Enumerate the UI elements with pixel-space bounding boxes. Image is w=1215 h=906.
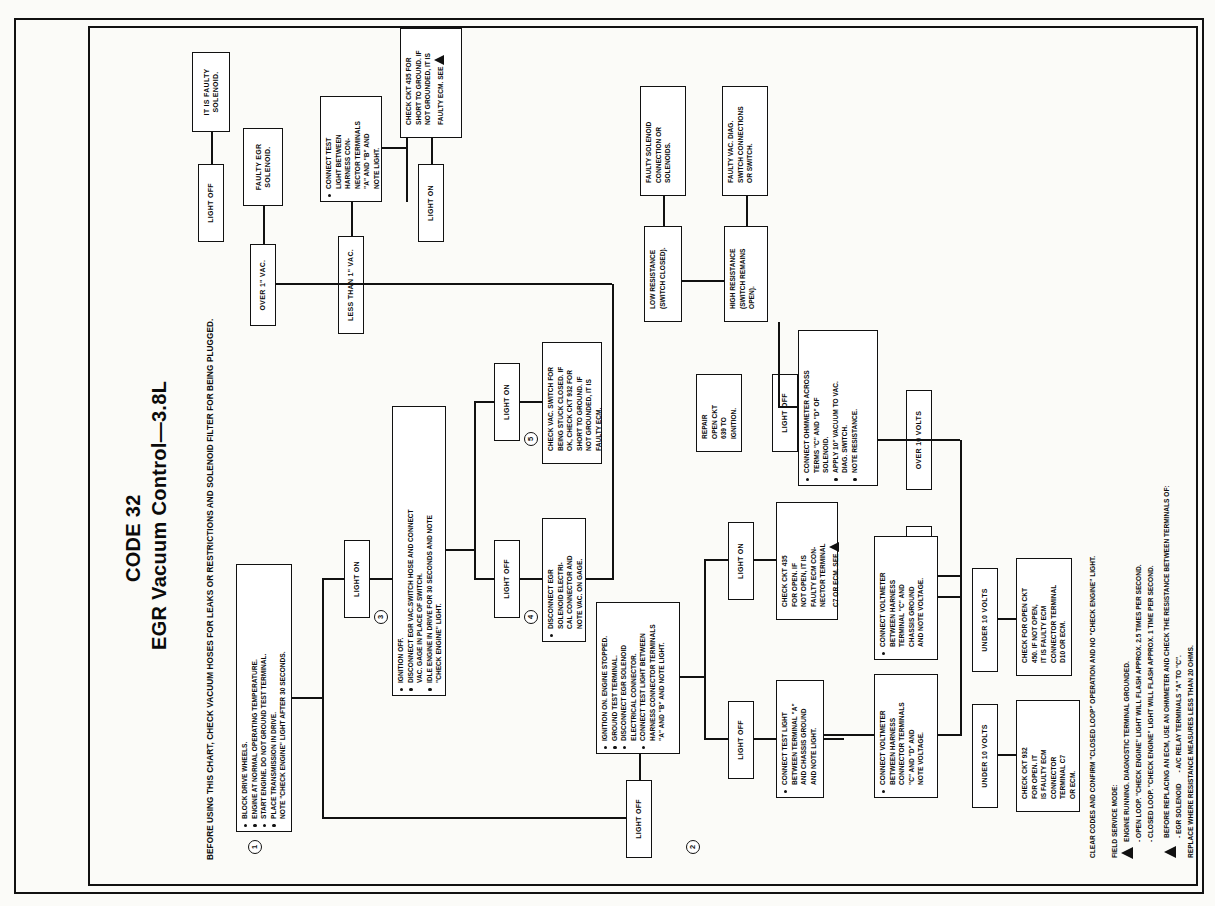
box-line: HIGH RESISTANCE xyxy=(729,231,738,317)
label-under-10-volts-2: UNDER 10 VOLTS xyxy=(972,568,998,672)
connector-h-6 xyxy=(612,284,614,580)
box-line: FAULTY VAC. DIAG. xyxy=(727,91,736,191)
box-line: AND CHASSIS GROUND xyxy=(800,685,809,793)
step-number-2: 2 xyxy=(686,840,700,854)
box-connect-ohmmeter-access-terminals: CONNECT OHMMETER ACROSSTERMS "C" AND "D"… xyxy=(798,330,878,486)
box-line: NOTE LIGHT. xyxy=(373,101,382,197)
label-less-than-1-vac: LESS THAN 1" VAC. xyxy=(338,236,364,334)
box-line: BETWEEN TERMINAL "A" xyxy=(791,685,800,793)
box-line: NOT OPEN, IT IS xyxy=(800,507,809,615)
connector-v-1-right xyxy=(322,578,344,580)
warning-triangle-icon xyxy=(1164,845,1176,858)
box-line: BETWEEN HARNESS xyxy=(889,679,898,793)
box-line: OR SWITCH. xyxy=(746,91,755,191)
box-check-ckt-435-open: CHECK CKT 435FOR OPEN. IFNOT OPEN, IT IS… xyxy=(776,502,838,620)
connector-v-18 xyxy=(824,734,874,736)
label-over-1-vac: OVER 1" VAC. xyxy=(250,244,276,326)
box-line: FOR OPEN. IT xyxy=(1031,705,1040,807)
box-line: CONNECT VOLTMETER xyxy=(879,679,888,793)
box-step-2-ignition-on: IGNITION ON. ENGINE STOPPED.GROUND TEST … xyxy=(596,602,680,754)
connector-h-11 xyxy=(431,138,433,164)
box-line: CHECK CKT 435 FOR xyxy=(405,33,414,133)
label-light-off-5: LIGHT OFF xyxy=(772,374,798,452)
box-line: NECTOR TERMINAL xyxy=(819,507,828,615)
label-light-off-4: LIGHT OFF xyxy=(728,701,754,779)
box-line: (SWITCH REMAINS xyxy=(739,231,748,317)
box-line: CHECK VAC. SWITCH FOR xyxy=(547,347,556,459)
box-line: SHORT TO GROUND. IF xyxy=(576,347,585,459)
connector-h-8 xyxy=(351,202,353,236)
box-line: BLOCK DRIVE WHEELS. xyxy=(241,569,250,827)
box-line: HARNESS CONNECTOR TERMINALS xyxy=(649,607,658,749)
box-line: AND NOTE VOLTAGE. xyxy=(917,541,926,655)
box-connect-voltmeter-terminals-c-d: CONNECT VOLTMETERBETWEEN HARNESSCONNECTO… xyxy=(874,674,938,798)
box-faulty-solenoid-connection: FAULTY SOLENOIDCONNECTION ORSOLENOIDS. xyxy=(640,86,686,196)
connector-v-19 xyxy=(938,734,960,736)
box-line: SOLENOID ELECTRI- xyxy=(557,523,566,637)
connector-h-3 xyxy=(474,402,476,580)
connector-v-7 xyxy=(276,283,612,285)
box-line: OK, CHECK CKT 932 FOR xyxy=(566,347,575,459)
scanned-page: CODE 32 EGR Vacuum Control—3.8L BEFORE U… xyxy=(0,0,1215,906)
box-repair-open-ckt-639: REPAIROPEN CKT639 TOIGNITION. xyxy=(696,374,742,452)
box-connect-test-light-terminal-a: CONNECT TEST LIGHTBETWEEN TERMINAL "A"AN… xyxy=(776,680,824,798)
box-line: ENGINE AT NORMAL OPERATING TEMPERATURE. xyxy=(251,569,260,827)
label-light-on-1: LIGHT ON xyxy=(344,540,370,618)
box-line: SHORT TO GROUND. IF xyxy=(415,33,424,133)
label-light-off-1: LIGHT OFF xyxy=(626,780,652,858)
box-line: FAULTY ECM. SEE xyxy=(434,33,446,133)
connector-v-13l xyxy=(704,738,728,740)
label-light-on-3: LIGHT ON xyxy=(418,164,444,242)
box-step-1-preconditions: BLOCK DRIVE WHEELS.ENGINE AT NORMAL OPER… xyxy=(236,564,292,832)
box-line: OR ECM. xyxy=(1069,705,1078,807)
box-line: NOTE "CHECK ENGINE" LIGHT AFTER 30 SECON… xyxy=(279,569,288,827)
box-line: IGNITION ON. ENGINE STOPPED. xyxy=(601,607,610,749)
box-check-vac-switch-stuck-closed: CHECK VAC. SWITCH FORBEING STUCK CLOSED.… xyxy=(542,342,602,464)
page-title-code: CODE 32 xyxy=(122,494,146,582)
box-connect-test-light-harness: CONNECT TESTLIGHT BETWEENHARNESS CON-NEC… xyxy=(320,96,382,202)
connector-h-1 xyxy=(322,579,324,819)
box-line: CONNECT TEST xyxy=(325,101,334,197)
box-line: TERMINAL "C" AND xyxy=(898,541,907,655)
flowchart-sheet: CODE 32 EGR Vacuum Control—3.8L BEFORE U… xyxy=(88,26,1194,882)
footnote-field-line-0: ENGINE RUNNING. DIAGNOSTIC TERMINAL GROU… xyxy=(1122,661,1131,842)
connector-v-2 xyxy=(370,578,392,580)
box-line: CHASSIS GROUND xyxy=(908,541,917,655)
box-line: 639 TO xyxy=(720,379,729,447)
step-number-1: 1 xyxy=(248,840,262,854)
footnote-warning-line-2: REPLACE WHERE RESISTANCE MEASURES LESS T… xyxy=(1186,645,1195,858)
box-line: CHECK FOR OPEN CKT xyxy=(1021,563,1030,671)
step-number-4: 4 xyxy=(524,610,538,624)
box-check-ckt-932-open: CHECK CKT 932FOR OPEN. ITIS FAULTY ECMCO… xyxy=(1016,700,1080,812)
connector-h-12 xyxy=(639,754,641,780)
box-line: CONNECTOR xyxy=(1050,705,1059,807)
box-line: BEING STUCK CLOSED. IF xyxy=(557,347,566,459)
box-line: CHECK CKT 435 xyxy=(781,507,790,615)
intro-note: BEFORE USING THIS CHART, CHECK VACUUM HO… xyxy=(206,319,216,861)
rotated-chart-container: CODE 32 EGR Vacuum Control—3.8L BEFORE U… xyxy=(88,26,1194,882)
connector-h-10 xyxy=(211,132,213,164)
connector-h-25 xyxy=(778,322,780,408)
connector-v-4 xyxy=(520,578,542,580)
box-line: TERMS "C" AND "D" OF xyxy=(813,335,822,481)
box-line: NOTE RESISTANCE. xyxy=(851,335,860,481)
box-line: "A" AND "B" AND xyxy=(363,101,372,197)
box-line: NOT GROUNDED, IT IS xyxy=(424,33,433,133)
box-high-resistance-switch-open: HIGH RESISTANCE(SWITCH REMAINSOPEN). xyxy=(724,226,768,322)
connector-v-13r xyxy=(704,559,728,561)
box-line: ELECTRICAL CONNECTOR. xyxy=(630,607,639,749)
box-line: FAULTY ECM CON- xyxy=(810,507,819,615)
box-line: NOT GROUNDED, IT IS xyxy=(585,347,594,459)
connector-v-6 xyxy=(586,578,612,580)
label-light-on-2: LIGHT ON xyxy=(494,363,520,441)
connector-v-13 xyxy=(680,676,704,678)
box-line: OPEN). xyxy=(748,231,757,317)
box-line: C7 OR ECM. SEE xyxy=(829,507,841,615)
connector-v-1 xyxy=(292,697,322,699)
page-title-subtitle: EGR Vacuum Control—3.8L xyxy=(148,381,172,650)
box-line: FOR OPEN. IF xyxy=(791,507,800,615)
box-line: OPEN CKT xyxy=(711,379,720,447)
connector-v-22 xyxy=(938,596,960,598)
box-it-is-faulty-solenoid: IT IS FAULTY SOLENOID. xyxy=(192,52,230,132)
box-line: SWITCH CONNECTIONS xyxy=(737,91,746,191)
